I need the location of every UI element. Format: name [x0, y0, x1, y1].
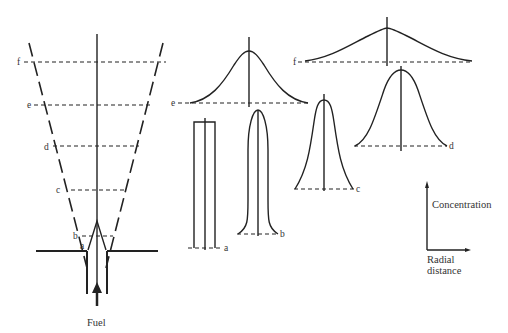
- radial-arrow-icon: [465, 248, 471, 252]
- jet-concentration-diagram: f e d c b a Fuel a b c d e: [0, 0, 508, 333]
- profile-a: a: [188, 118, 229, 253]
- fuel-arrow-icon: [92, 282, 102, 293]
- profile-c: c: [294, 94, 360, 194]
- profile-d: d: [354, 66, 454, 151]
- station-label-a: a: [80, 241, 85, 251]
- station-label-c: c: [56, 185, 60, 195]
- fuel-label: Fuel: [87, 317, 106, 328]
- profile-e: e: [171, 37, 309, 108]
- radial-label-line1: Radial: [427, 254, 454, 265]
- station-label-e: e: [27, 100, 31, 110]
- profile-b: b: [237, 110, 285, 239]
- profile-label-c: c: [356, 184, 360, 194]
- jet-schematic: f e d c b a Fuel: [17, 34, 166, 328]
- concentration-label: Concentration: [432, 199, 492, 210]
- profile-label-e: e: [171, 98, 175, 108]
- station-label-f: f: [17, 57, 21, 67]
- station-label-b: b: [73, 231, 78, 241]
- axes-key: Concentration Radial distance: [425, 181, 492, 276]
- profile-f: f: [293, 17, 472, 67]
- jet-boundary-right: [106, 43, 163, 268]
- profile-label-d: d: [449, 141, 454, 151]
- profile-label-b: b: [280, 229, 285, 239]
- profile-label-a: a: [224, 243, 229, 253]
- jet-boundary-left: [29, 43, 87, 268]
- concentration-arrow-icon: [425, 181, 429, 188]
- station-label-d: d: [44, 142, 49, 152]
- radial-label-line2: distance: [427, 265, 462, 276]
- profile-label-f: f: [293, 57, 297, 67]
